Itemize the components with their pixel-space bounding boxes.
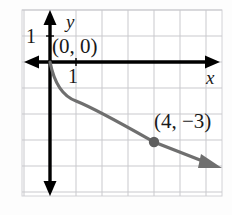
y-axis-label: y bbox=[66, 12, 74, 31]
data-point-label: (4, −3) bbox=[154, 111, 211, 132]
data-point-marker bbox=[149, 137, 159, 147]
origin-point-label: (0, 0) bbox=[52, 36, 98, 57]
y-axis-tick-label: 1 bbox=[26, 26, 36, 46]
x-axis-label: x bbox=[206, 68, 214, 87]
coordinate-graph-figure: 1 1 y x (0, 0) (4, −3) bbox=[0, 0, 232, 215]
x-axis-tick-label: 1 bbox=[68, 66, 78, 86]
